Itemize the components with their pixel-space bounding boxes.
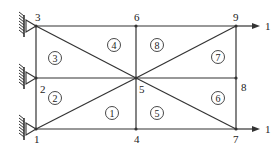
node-label: 2	[40, 83, 46, 95]
node-label: 7	[233, 133, 239, 145]
node-point	[234, 76, 237, 79]
element-label: 7	[212, 51, 225, 64]
element-label: 8	[151, 39, 164, 52]
load-arrow-icon: 1	[236, 20, 271, 32]
svg-text:7: 7	[216, 52, 221, 63]
element-label: 1	[106, 107, 119, 120]
svg-text:8: 8	[155, 40, 160, 51]
node-label: 6	[134, 11, 140, 23]
pin-support-icon	[19, 64, 36, 89]
node-label: 9	[233, 11, 239, 23]
pin-support-icon	[19, 12, 36, 37]
load-arrow-icon: 1	[236, 123, 271, 135]
element-label: 6	[212, 92, 225, 105]
node-point	[134, 127, 137, 130]
svg-text:6: 6	[216, 93, 221, 104]
node-point	[234, 127, 237, 130]
node-point	[134, 24, 137, 27]
load-value: 1	[265, 123, 271, 135]
node-point	[34, 76, 37, 79]
node-label: 3	[35, 11, 41, 23]
node-label: 4	[134, 133, 140, 145]
element-label: 5	[151, 107, 164, 120]
node-label: 1	[34, 133, 40, 145]
node-label: 8	[241, 81, 247, 93]
loads: 11	[236, 20, 271, 135]
svg-text:3: 3	[53, 53, 58, 64]
svg-text:2: 2	[53, 93, 58, 104]
edge-3-5	[36, 26, 136, 78]
element-label: 2	[49, 92, 62, 105]
node-point	[34, 24, 37, 27]
element-label: 3	[49, 52, 62, 65]
svg-text:5: 5	[155, 108, 160, 119]
node-label: 5	[139, 83, 145, 95]
svg-text:4: 4	[112, 40, 117, 51]
element-label: 4	[108, 39, 121, 52]
node-point	[234, 24, 237, 27]
supports	[19, 12, 36, 140]
fem-mesh-diagram: 11 12345678 123456789	[0, 0, 276, 150]
svg-text:1: 1	[110, 108, 115, 119]
load-value: 1	[265, 20, 271, 32]
node-point	[34, 127, 37, 130]
node-point	[134, 76, 137, 79]
